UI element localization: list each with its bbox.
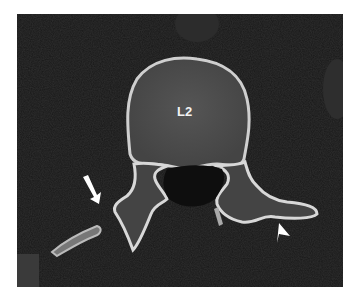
vertebra-label: L2 (177, 104, 192, 119)
ct-scan-graphic (17, 14, 343, 287)
ct-image: L2 (17, 14, 343, 287)
soft-tissue-bottom-left (17, 254, 39, 287)
